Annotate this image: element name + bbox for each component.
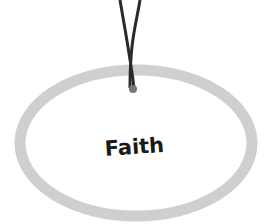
hanging-tag-graphic: [0, 0, 269, 224]
